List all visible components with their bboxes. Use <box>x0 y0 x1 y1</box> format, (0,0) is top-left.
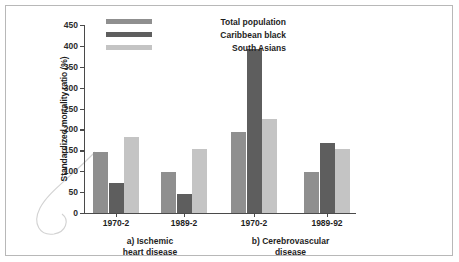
bar-total-population <box>161 172 176 213</box>
y-tick-mark <box>80 109 84 110</box>
x-tick-label: 1989-2 <box>171 219 197 228</box>
x-tick-label: 1989-92 <box>311 219 342 228</box>
bar-total-population <box>304 172 319 213</box>
y-tick-mark <box>80 129 84 130</box>
x-tick-mark <box>184 213 185 217</box>
x-tick-label: 1970-2 <box>241 219 267 228</box>
y-tick-label: 300 <box>64 83 78 92</box>
bar-caribbean-black <box>247 49 262 213</box>
y-tick-mark <box>80 25 84 26</box>
legend-swatch-caribbean-black <box>106 32 152 37</box>
y-tick-mark <box>80 150 84 151</box>
panel-caption: b) Cerebrovasculardisease <box>252 236 329 258</box>
bar-caribbean-black <box>320 143 335 213</box>
bar-total-population <box>231 132 246 213</box>
legend-item: Total population <box>106 15 286 28</box>
panel-caption-line1: a) Ischemic <box>123 236 177 247</box>
chart-figure: Standardized mortality ratio (%) 4504003… <box>0 0 459 262</box>
legend-swatch-south-asians <box>106 45 152 50</box>
legend-swatch-total-population <box>106 19 152 24</box>
y-tick-mark <box>80 171 84 172</box>
y-tick-label: 400 <box>64 42 78 51</box>
y-tick-mark <box>80 213 84 214</box>
bar-south-asians <box>262 119 277 213</box>
bar-caribbean-black <box>109 183 124 213</box>
panel-caption-line1: b) Cerebrovascular <box>252 236 329 247</box>
y-axis-line <box>84 25 85 213</box>
y-tick-mark <box>80 67 84 68</box>
x-tick-label: 1970-2 <box>103 219 129 228</box>
x-tick-mark <box>116 213 117 217</box>
bar-south-asians <box>124 137 139 213</box>
panel-caption-line2: disease <box>252 247 329 258</box>
panel-caption: a) Ischemicheart disease <box>123 236 177 258</box>
y-tick-mark <box>80 192 84 193</box>
y-tick-label: 150 <box>64 146 78 155</box>
panel-caption-line2: heart disease <box>123 247 177 258</box>
legend-item: South Asians <box>106 41 286 54</box>
bar-south-asians <box>192 149 207 213</box>
y-tick-mark <box>80 46 84 47</box>
y-tick-mark <box>80 88 84 89</box>
y-axis-title: Standardized mortality ratio (%) <box>57 25 71 213</box>
legend-item: Caribbean black <box>106 28 286 41</box>
chart-legend: Total populationCaribbean blackSouth Asi… <box>106 15 286 54</box>
y-tick-label: 250 <box>64 104 78 113</box>
x-tick-mark <box>327 213 328 217</box>
y-tick-label: 200 <box>64 125 78 134</box>
y-tick-label: 350 <box>64 63 78 72</box>
x-tick-mark <box>254 213 255 217</box>
bar-south-asians <box>335 149 350 213</box>
legend-label: Caribbean black <box>158 30 286 40</box>
legend-label: Total population <box>158 17 286 27</box>
bar-caribbean-black <box>177 194 192 213</box>
x-axis-line <box>84 213 356 214</box>
legend-label: South Asians <box>158 43 286 53</box>
bar-total-population <box>93 152 108 213</box>
y-tick-label: 50 <box>69 188 78 197</box>
y-tick-label: 0 <box>73 209 78 218</box>
y-tick-label: 450 <box>64 21 78 30</box>
y-tick-label: 100 <box>64 167 78 176</box>
